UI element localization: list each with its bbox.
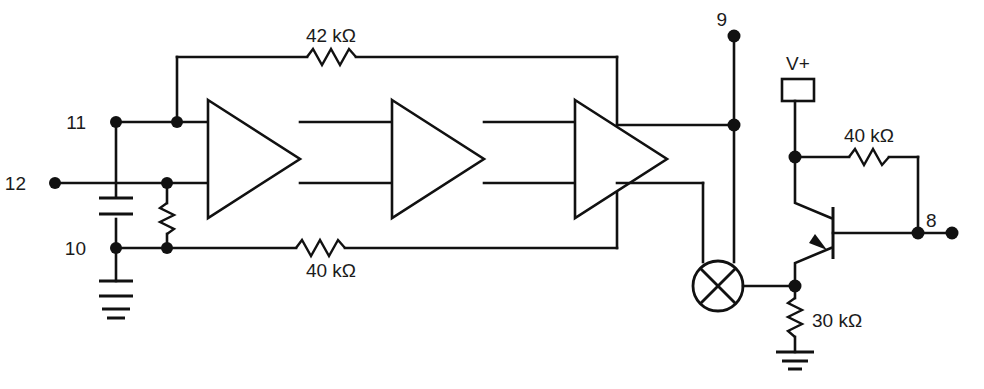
resistor-label-40k-feedback: 40 kΩ [306,260,356,281]
resistor-feedback-top [307,49,356,65]
resistor-label-30k: 30 kΩ [812,310,862,331]
resistor-collector [849,149,889,165]
pin-label-8: 8 [926,210,937,231]
resistor-feedback-bottom [296,240,345,256]
pin-label-12: 12 [5,173,26,194]
node-emitter-tap [789,280,802,293]
terminal-pin8[interactable] [946,227,959,240]
node-feedback-top-tap [171,116,183,128]
resistor-emitter [788,298,802,337]
node-pin8 [912,227,925,240]
capacitor-input [99,198,133,214]
node-pin11 [110,116,122,128]
pin-label-10: 10 [65,238,86,259]
supply-box [782,79,814,101]
node-pin9-tap [728,119,741,132]
node-pin10 [110,242,122,254]
resistor-label-40k-collector: 40 kΩ [844,125,894,146]
resistor-input-shunt [160,203,174,234]
pin-label-9: 9 [716,9,727,30]
node-supply-tap [789,151,802,164]
lamp-symbol [693,261,743,311]
pin-label-11: 11 [66,112,86,133]
circuit-diagram: 11 12 10 9 8 42 kΩ 40 kΩ 40 kΩ 30 kΩ V+ [0,0,984,389]
node-shunt-top [161,177,173,189]
amplifier-stage-3 [575,100,667,218]
supply-label: V+ [786,53,810,74]
schematic-page: 11 12 10 9 8 42 kΩ 40 kΩ 40 kΩ 30 kΩ V+ [0,0,984,389]
transistor-symbol [795,157,918,286]
amplifier-stage-1 [208,100,300,218]
resistor-label-42k: 42 kΩ [306,25,356,46]
node-shunt-bottom [161,242,173,254]
ground-left [99,248,133,318]
terminal-pin12[interactable] [49,177,61,189]
amplifier-stage-2 [392,100,484,218]
terminal-pin9[interactable] [728,30,741,43]
ground-right [776,337,814,369]
